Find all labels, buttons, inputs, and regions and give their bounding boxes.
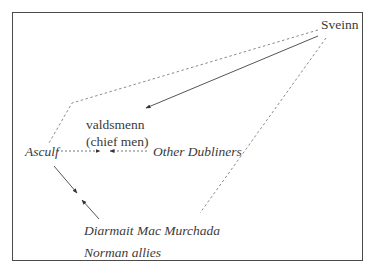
node-valdsmenn: valdsmenn [86, 117, 145, 133]
arrow-diarmait-to-lower [82, 200, 99, 219]
node-sveinn: Sveinn [321, 17, 359, 33]
node-valdsmenn-sublabel: (chief men) [86, 134, 149, 150]
dashed-link-sveinn-diarmait [200, 38, 326, 213]
arrow-asculf-to-lower [54, 166, 77, 193]
node-diarmait: Diarmait Mac Murchada [84, 223, 220, 239]
node-other-dubliners: Other Dubliners [153, 144, 242, 160]
arrow-sveinn-to-valdsmenn [146, 36, 318, 108]
node-asculf: Asculf [25, 144, 59, 160]
node-norman-allies: Norman allies [84, 245, 161, 261]
